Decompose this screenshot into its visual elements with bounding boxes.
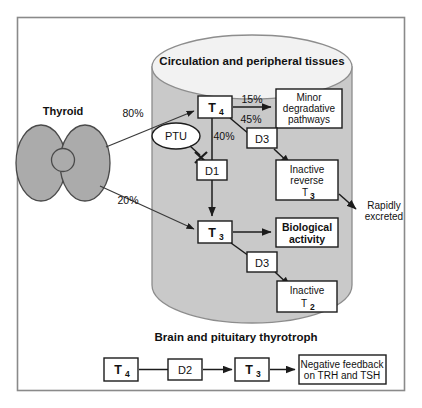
- thyroid-metabolism-figure: Circulation and peripheral tissues Thyro…: [0, 0, 422, 408]
- negative-feedback-line1: Negative feedback: [301, 359, 385, 370]
- inactive-t2-subscript: 2: [310, 302, 315, 312]
- thyroid-gland-icon: [16, 125, 110, 201]
- minor-degradative-line1: Minor: [296, 92, 322, 103]
- node-t4-subscript: 4: [219, 107, 224, 117]
- node-t4-circulation: T 4: [198, 96, 232, 118]
- percent-to-t4: 80%: [122, 107, 143, 119]
- inactive-t2-line2: T: [301, 298, 307, 309]
- negative-feedback-line2: on TRH and TSH: [304, 370, 380, 381]
- rapidly-excreted-line2: excreted: [365, 211, 403, 222]
- enzyme-d1: D1: [197, 160, 227, 180]
- node-t4-label: T: [208, 101, 216, 115]
- node-t4-brain: T 4: [104, 358, 138, 381]
- enzyme-d3-lower-label: D3: [255, 257, 269, 269]
- box-inactive-t2: Inactive T 2: [277, 281, 337, 312]
- percent-to-t3: 20%: [117, 194, 138, 206]
- enzyme-d2: D2: [168, 359, 202, 380]
- inactive-t2-line1: Inactive: [290, 285, 325, 296]
- thyroid-label: Thyroid: [43, 105, 83, 117]
- percent-t4-to-minor: 15%: [241, 93, 262, 105]
- enzyme-d3-upper: D3: [247, 128, 277, 148]
- rapidly-excreted-line1: Rapidly: [367, 200, 400, 211]
- minor-degradative-line2: degradative: [283, 103, 336, 114]
- box-minor-degradative: Minor degradative pathways: [276, 89, 342, 128]
- node-t3-brain: T 3: [235, 358, 269, 381]
- biological-activity-line2: activity: [289, 233, 325, 245]
- minor-degradative-line3: pathways: [288, 114, 330, 125]
- circulation-header: Circulation and peripheral tissues: [159, 55, 344, 67]
- node-t3-circulation: T 3: [198, 221, 232, 243]
- enzyme-d2-label: D2: [178, 364, 192, 376]
- inactive-reverse-t3-subscript: 3: [310, 191, 315, 201]
- brain-header: Brain and pituitary thyrotroph: [155, 331, 318, 343]
- node-t4-brain-subscript: 4: [125, 369, 130, 379]
- box-negative-feedback: Negative feedback on TRH and TSH: [299, 355, 386, 384]
- inactive-reverse-t3-line3: T: [302, 187, 308, 198]
- percent-t4-to-d3: 45%: [240, 113, 261, 125]
- node-t3-brain-label: T: [245, 363, 253, 377]
- enzyme-d1-label: D1: [205, 165, 219, 177]
- enzyme-ptu-label: PTU: [165, 130, 187, 142]
- node-t3-brain-subscript: 3: [256, 369, 261, 379]
- percent-t4-to-d1: 40%: [213, 130, 234, 142]
- inactive-reverse-t3-line1: Inactive: [290, 164, 325, 175]
- biological-activity-line1: Biological: [282, 221, 332, 233]
- node-t3-label: T: [208, 226, 216, 240]
- node-t3-subscript: 3: [219, 232, 224, 242]
- box-inactive-reverse-t3: Inactive reverse T 3: [276, 160, 338, 201]
- node-t4-brain-label: T: [114, 363, 122, 377]
- enzyme-d3-lower: D3: [247, 252, 277, 272]
- box-biological-activity: Biological activity: [276, 218, 338, 247]
- inactive-reverse-t3-line2: reverse: [290, 175, 324, 186]
- enzyme-ptu: PTU: [152, 123, 200, 149]
- enzyme-d3-upper-label: D3: [255, 133, 269, 145]
